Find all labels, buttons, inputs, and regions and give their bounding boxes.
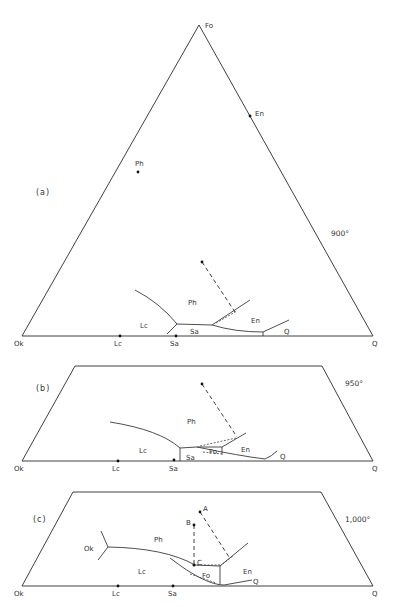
ok-field-boundary [98,531,108,560]
sa-composition-point [172,585,175,588]
field-label-ok: Ok [84,545,95,553]
phase-diagram-figure: Fo Ok Q En Ph Lc Sa (a) 900° Ph Lc Sa En… [0,0,396,607]
field-label-en: En [243,568,252,576]
crystallization-path-a [200,512,229,557]
sa-composition-label: Sa [170,340,179,348]
lc-composition-label: Lc [114,340,122,348]
corner-label-fo: Fo [205,22,213,30]
panel-a: Fo Ok Q En Ph Lc Sa (a) 900° Ph Lc Sa En… [14,22,378,348]
corner-label-q: Q [372,465,378,473]
field-label-ph: Ph [154,536,163,544]
lc-composition-label: Lc [112,590,120,598]
panel-label: (a) [36,188,50,197]
bulk-composition-point [201,383,204,386]
sa-composition-point [173,459,176,462]
field-label-q: Q [284,328,290,336]
point-a-label: A [203,505,208,513]
panel-c: Ok Q Lc Sa (c) 1,000° A B C Ok Ph Lc Fo … [14,492,378,598]
field-label-q: Q [280,453,286,461]
panel-label: (c) [33,515,47,524]
ph-lc-boundary [135,290,177,324]
point-a [199,511,202,514]
corner-label-ok: Ok [14,340,25,348]
sa-composition-label: Sa [168,590,177,598]
ph-en-boundary [212,300,250,325]
temperature-label: 1,000° [345,515,370,524]
point-c-label: C [197,559,202,567]
en-composition-label: En [255,110,264,118]
ph-lc-boundary [108,547,195,565]
ph-sa-boundary [177,324,212,325]
lc-sa-boundary [167,324,177,334]
field-label-q: Q [253,578,259,586]
field-label-fo: Fo [209,448,217,456]
point-c [193,564,196,567]
panel-b: Ok Q Lc Sa (b) 950° Ph Lc Sa Fo En Q [14,366,378,473]
corner-label-ok: Ok [14,590,25,598]
temperature-label: 950° [345,379,363,388]
lc-composition-point [117,460,120,463]
field-label-sa: Sa [186,454,195,462]
sa-composition-point [175,335,178,338]
en-q-boundary [224,580,252,585]
sa-en-boundary [212,325,263,332]
reaction-hatching [216,311,237,323]
point-b-label: B [186,519,191,527]
crystallization-path [202,384,237,437]
lc-composition-point [119,335,122,338]
ph-lc-boundary [110,422,180,448]
field-label-ph: Ph [187,418,196,426]
crystallization-path [202,262,235,312]
point-b [193,524,196,527]
lc-composition-point [117,585,120,588]
field-label-lc: Lc [138,568,146,576]
panel-label: (b) [36,384,50,393]
field-label-lc: Lc [139,447,147,455]
sa-composition-label: Sa [169,465,178,473]
field-label-fo: Fo [202,572,210,580]
ternary-section-trapezoid [22,492,373,586]
en-composition-point [249,115,252,118]
ph-composition-point [137,171,140,174]
field-label-en: En [241,446,250,454]
sa-en-boundary [197,447,265,459]
bulk-composition-point [201,261,204,264]
ternary-triangle [22,25,373,336]
field-label-sa: Sa [190,328,199,336]
field-label-en: En [251,317,260,325]
temperature-label: 900° [331,229,349,238]
corner-label-ok: Ok [14,465,25,473]
ph-sa-boundary [180,447,197,448]
corner-label-q: Q [372,340,378,348]
corner-label-q: Q [372,590,378,598]
field-label-lc: Lc [140,322,148,330]
lc-composition-label: Lc [112,465,120,473]
en-q-boundary [265,451,277,459]
ph-composition-label: Ph [135,160,144,168]
field-label-ph: Ph [188,299,197,307]
